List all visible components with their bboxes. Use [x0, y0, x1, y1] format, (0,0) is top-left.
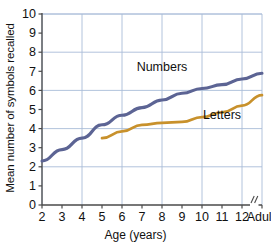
x-tick-label: 6	[119, 210, 126, 224]
series-label-letters: Letters	[203, 108, 241, 122]
x-tick-label: 10	[195, 210, 209, 224]
y-tick-label: 1	[29, 179, 36, 193]
y-tick-label: 5	[29, 103, 36, 117]
x-tick-label: 5	[99, 210, 106, 224]
y-tick-label: 6	[29, 84, 36, 98]
memory-span-line-chart: 012345678910 23456789101112Adults Number…	[0, 0, 271, 250]
caption-sliver	[6, 244, 265, 250]
y-tick-label: 2	[29, 160, 36, 174]
series-label-numbers: Numbers	[137, 60, 188, 74]
y-tick-label: 0	[29, 198, 36, 212]
y-tick-label: 10	[22, 7, 36, 21]
x-tick-label: 7	[139, 210, 146, 224]
y-tick-label: 3	[29, 141, 36, 155]
x-tick-label: 11	[216, 210, 229, 224]
y-tick-label: 4	[29, 122, 36, 136]
axis-break-gap	[250, 204, 259, 207]
x-tick-label: Adults	[247, 210, 271, 224]
x-tick-label: 4	[79, 210, 86, 224]
y-tick-label: 9	[29, 26, 36, 40]
x-tick-label: 2	[39, 210, 46, 224]
figure-container: 012345678910 23456789101112Adults Number…	[0, 0, 271, 250]
x-axis-title-text: Age (years)	[0, 228, 271, 242]
y-tick-label: 8	[29, 45, 36, 59]
y-tick-label: 7	[29, 65, 36, 79]
x-tick-label: 3	[59, 210, 66, 224]
x-tick-label: 8	[159, 210, 166, 224]
x-tick-label: 9	[179, 210, 186, 224]
